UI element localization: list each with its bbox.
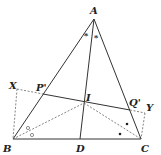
label-a: A — [89, 5, 98, 16]
dashed-qy — [130, 110, 145, 113]
dashed-yc — [141, 113, 145, 139]
label-i: I — [85, 92, 91, 103]
label-b: B — [2, 143, 11, 154]
angle-mark-a-right: * — [94, 32, 99, 42]
dashed-bi — [13, 103, 84, 139]
label-p-prime: P' — [35, 82, 47, 93]
geometry-figure: * * A B C D I P' Q' X Y — [0, 0, 161, 155]
angle-mark-b-1 — [26, 126, 29, 129]
dashed-ic — [84, 103, 141, 139]
segment-ac — [94, 19, 141, 139]
label-d: D — [75, 143, 85, 154]
angle-mark-a-left: * — [84, 30, 89, 40]
dashed-xb — [13, 89, 17, 139]
label-x: X — [8, 80, 18, 91]
angle-mark-b-2 — [30, 133, 33, 136]
angle-mark-c-1 — [126, 123, 129, 126]
label-y: Y — [146, 102, 154, 113]
label-c: C — [141, 143, 149, 154]
angle-mark-c-2 — [119, 133, 122, 136]
label-q-prime: Q' — [129, 97, 141, 108]
